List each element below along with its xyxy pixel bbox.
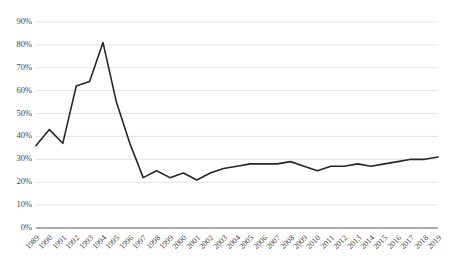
y-axis-tick-label: 50% (16, 108, 32, 118)
y-axis-tick-label: 90% (16, 16, 32, 26)
gridlines (36, 22, 438, 228)
y-axis-tick-label: 10% (16, 199, 32, 209)
y-axis-tick-label: 0% (21, 222, 32, 232)
line-chart: 0%10%20%30%40%50%60%70%80%90% 1989199019… (0, 0, 451, 267)
y-axis-tick-label: 30% (16, 153, 32, 163)
y-axis-tick-label: 80% (16, 39, 32, 49)
chart-plot-area (0, 0, 451, 267)
y-axis-tick-label: 40% (16, 130, 32, 140)
y-axis-tick-label: 70% (16, 62, 32, 72)
y-axis-tick-label: 60% (16, 85, 32, 95)
y-axis-tick-label: 20% (16, 176, 32, 186)
